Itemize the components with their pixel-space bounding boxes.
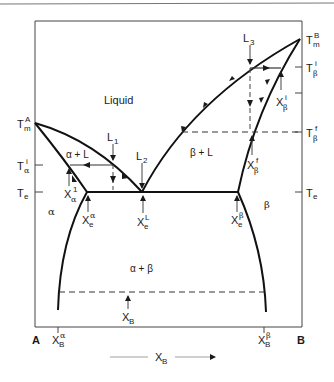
svg-text:B: B: [162, 357, 167, 366]
region-label-alpha-beta: α + β: [130, 263, 153, 274]
label-X-alpha-1: X α 1: [64, 185, 78, 204]
composition-marker-arrows: [69, 72, 281, 309]
svg-text:3: 3: [250, 38, 255, 47]
label-L3: L 3: [243, 32, 255, 47]
phase-diagram: Liquid α + L β + L α β α + β T m A T α i…: [0, 0, 334, 382]
label-XB: X B: [122, 311, 134, 326]
label-X-beta-i: X β i: [276, 93, 288, 112]
label-XB-beta: X B β: [258, 331, 271, 349]
svg-text:B: B: [59, 340, 64, 349]
svg-text:T: T: [306, 62, 313, 74]
label-Xe-alpha: X e α: [82, 211, 96, 229]
svg-text:L: L: [136, 150, 142, 162]
svg-text:α: α: [24, 166, 30, 175]
svg-text:e: e: [24, 192, 29, 201]
svg-text:T: T: [306, 34, 313, 46]
svg-text:L: L: [243, 32, 249, 44]
label-Tm-B: T m B: [306, 31, 320, 49]
region-label-liquid: Liquid: [104, 94, 133, 106]
svg-text:α: α: [71, 195, 77, 204]
region-label-alpha-L: α + L: [66, 149, 89, 160]
svg-text:e: e: [144, 222, 149, 231]
svg-text:T: T: [306, 187, 313, 199]
svg-text:β: β: [254, 166, 259, 175]
svg-text:β: β: [239, 211, 244, 220]
region-label-alpha: α: [48, 206, 55, 217]
svg-text:i: i: [315, 59, 317, 68]
svg-text:2: 2: [143, 156, 148, 165]
label-L1: L 1: [107, 131, 119, 146]
label-A: A: [32, 334, 40, 346]
label-T-alpha-i: T α i: [17, 157, 30, 175]
svg-text:m: m: [313, 40, 320, 49]
svg-text:i: i: [26, 157, 28, 166]
svg-text:m: m: [24, 124, 31, 133]
svg-text:α: α: [60, 331, 66, 340]
svg-text:1: 1: [73, 185, 78, 194]
svg-text:i: i: [285, 93, 287, 102]
svg-text:T: T: [17, 118, 24, 130]
svg-text:B: B: [314, 31, 319, 40]
label-T-beta-i: T β i: [306, 59, 318, 78]
label-Xe-L: X e L: [137, 213, 150, 231]
label-B: B: [297, 334, 305, 346]
label-Te-left: T e: [17, 187, 29, 201]
svg-text:T: T: [306, 127, 313, 139]
region-label-beta: β: [264, 199, 270, 210]
label-Xe-beta: X e β: [231, 211, 244, 229]
svg-text:β: β: [283, 103, 288, 112]
x-axis-title: X B: [155, 351, 167, 366]
solvus-beta-curve: [238, 192, 266, 312]
svg-text:B: B: [129, 317, 134, 326]
svg-text:T: T: [17, 160, 24, 172]
curve-direction-arrows: [72, 76, 270, 182]
label-XB-alpha: X B α: [52, 331, 66, 349]
svg-text:β: β: [313, 134, 318, 143]
svg-text:β: β: [313, 69, 318, 78]
svg-text:B: B: [265, 340, 270, 349]
region-label-beta-L: β + L: [190, 147, 213, 158]
svg-text:β: β: [266, 331, 271, 340]
svg-text:α: α: [90, 211, 96, 220]
L3-path: [247, 45, 281, 131]
svg-text:f: f: [315, 124, 318, 133]
label-L2: L 2: [136, 150, 148, 165]
label-Tm-A: T m A: [17, 115, 31, 133]
label-Te-right: T e: [306, 187, 318, 201]
svg-text:L: L: [145, 213, 150, 222]
label-T-beta-f: T β f: [306, 124, 318, 143]
label-X-beta-f: X β f: [247, 156, 259, 175]
svg-text:T: T: [17, 187, 24, 199]
svg-text:e: e: [89, 220, 94, 229]
svg-text:e: e: [313, 192, 318, 201]
svg-text:f: f: [256, 156, 259, 165]
top-rule: [0, 3, 334, 4]
liquidus-B-curve: [142, 39, 300, 192]
svg-text:L: L: [107, 131, 113, 143]
svg-text:1: 1: [114, 137, 119, 146]
svg-text:A: A: [25, 115, 31, 124]
svg-text:e: e: [238, 220, 243, 229]
